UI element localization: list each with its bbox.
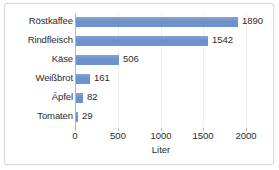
x-axis-title: Liter [75, 144, 247, 155]
table-row: Röstkaffee 1890 [5, 13, 274, 32]
table-row: Weißbrot 161 [5, 70, 274, 89]
table-row: Käse 506 [5, 51, 274, 70]
category-label-rostkaffee: Röstkaffee [7, 15, 73, 26]
bar-value-rostkaffee: 1890 [242, 15, 263, 26]
bar-aepfel[interactable] [76, 93, 83, 103]
bar-value-weissbrot: 161 [94, 72, 110, 83]
tick-label-2000: 2000 [226, 130, 266, 141]
bar-rostkaffee[interactable] [76, 17, 238, 27]
tick-label-1500: 1500 [183, 130, 223, 141]
tick-label-500: 500 [98, 130, 138, 141]
plot-area: Röstkaffee 1890 Rindfleisch 1542 Käse 50… [5, 4, 274, 165]
bar-value-kaese: 506 [123, 53, 139, 64]
bar-value-rindfleisch: 1542 [212, 34, 233, 45]
bar-weissbrot[interactable] [76, 74, 90, 84]
tick-label-1000: 1000 [141, 130, 181, 141]
category-label-aepfel: Äpfel [7, 91, 73, 102]
bar-rindfleisch[interactable] [76, 36, 208, 46]
bar-value-tomaten: 29 [82, 110, 93, 121]
bar-kaese[interactable] [76, 55, 119, 65]
category-label-kaese: Käse [7, 53, 73, 64]
bar-tomaten[interactable] [76, 112, 78, 122]
table-row: Äpfel 82 [5, 89, 274, 108]
chart-frame: Röstkaffee 1890 Rindfleisch 1542 Käse 50… [4, 3, 274, 165]
table-row: Rindfleisch 1542 [5, 32, 274, 51]
tick-label-0: 0 [55, 130, 95, 141]
category-label-rindfleisch: Rindfleisch [7, 34, 73, 45]
category-label-tomaten: Tomaten [7, 110, 73, 121]
category-label-weissbrot: Weißbrot [7, 72, 73, 83]
bar-value-aepfel: 82 [87, 91, 98, 102]
table-row: Tomaten 29 [5, 108, 274, 127]
